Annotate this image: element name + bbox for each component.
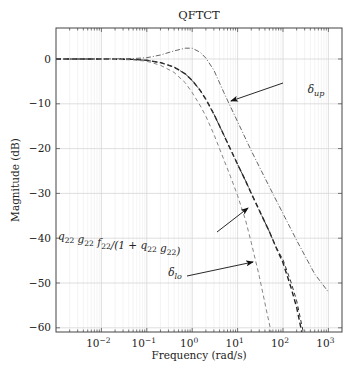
x-tick-label: 100 (180, 336, 198, 349)
y-tick-label: −10 (29, 97, 51, 109)
x-tick-label: 103 (316, 336, 334, 349)
annotation-arrow (231, 83, 283, 101)
y-tick-label: −50 (29, 277, 51, 289)
curve-line (56, 59, 303, 332)
x-axis-label: Frequency (rad/s) (151, 349, 246, 361)
chart-title: QFTCT (178, 8, 220, 22)
x-tick-label: 10−2 (86, 336, 111, 349)
x-tick-label: 102 (271, 336, 289, 349)
x-tick-label: 10−1 (132, 336, 156, 349)
y-tick-label: −30 (29, 187, 51, 199)
bode-magnitude-chart: QFTCT 0−10−20−30−40−50−6010−210−11001011… (0, 0, 358, 377)
annotation-label: δlo (168, 266, 182, 281)
y-tick-label: −20 (29, 142, 51, 154)
annotation-arrow (187, 262, 253, 276)
y-tick-label: −60 (29, 321, 51, 333)
annotation-label: q22 g22 f22/(1 + q22 g22) (58, 230, 180, 257)
annotation-arrow (217, 208, 248, 232)
y-axis-label: Magnitude (dB) (9, 138, 21, 222)
curve-line (56, 59, 271, 332)
plot-frame (56, 28, 342, 332)
x-tick-label: 101 (226, 336, 244, 349)
y-tick-label: −40 (29, 232, 51, 244)
grid-lines (56, 28, 342, 332)
y-tick-label: 0 (44, 53, 51, 65)
annotations: δupq22 g22 f22/(1 + q22 g22)δlo (58, 83, 324, 281)
